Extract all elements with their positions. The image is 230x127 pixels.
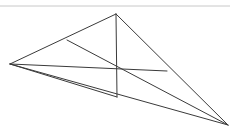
diagram-edge-e4 — [10, 64, 167, 71]
diagram-edge-e1 — [10, 14, 116, 64]
tetrahedron-diagram — [0, 0, 230, 127]
diagram-edge-e3 — [10, 64, 228, 125]
diagram-edge-e5 — [67, 40, 228, 125]
edge-layer — [10, 14, 228, 125]
diagram-edge-e7 — [116, 14, 117, 97]
diagram-edge-e6 — [10, 64, 117, 97]
figure-container — [0, 0, 230, 127]
